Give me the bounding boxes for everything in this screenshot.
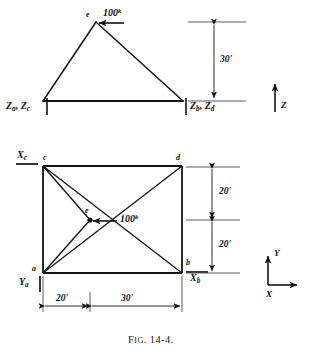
node-e-marker: [87, 217, 92, 222]
truss-member-right: [96, 22, 183, 101]
dimension-vertical-plan: [150, 167, 240, 273]
elevation-height-dimension: 30': [220, 55, 232, 65]
plan-force-unit: k: [135, 213, 138, 220]
figure-14-4: e 100k 30' Za, Zc Zb, Zd Z Xc c d a b e …: [0, 0, 317, 358]
plan-node-d-label: d: [176, 154, 180, 162]
reaction-label-xb: Xb: [190, 273, 200, 285]
elevation-force-value: 100: [103, 7, 118, 18]
plan-force-value: 100: [120, 213, 135, 224]
axis-indicator-xy: [268, 256, 297, 285]
plan-node-c-label: c: [43, 154, 47, 162]
frame-member-ce: [43, 166, 90, 220]
dimension-30-elevation: [188, 22, 246, 101]
plan-horizontal-dim-right: 30': [121, 294, 133, 304]
plan-horizontal-dim-left: 20': [56, 294, 68, 304]
xb-letter: X: [190, 272, 197, 283]
reaction-label-za-zc: Za, Zc: [6, 101, 30, 113]
axis-label-x: X: [266, 290, 272, 299]
plan-frame: [43, 166, 182, 273]
xb-sub: b: [197, 277, 201, 285]
figure-caption: FIG. 14-4.: [128, 334, 174, 345]
elevation-truss: [43, 22, 183, 101]
reaction-label-ya: Ya: [19, 277, 29, 289]
caption-number: . 14-4.: [144, 334, 174, 345]
diagram-vector-layer: [0, 0, 317, 358]
frame-member-ae: [43, 220, 90, 273]
elevation-node-e-label: e: [86, 11, 90, 19]
reaction-label-zb-zd: Zb, Zd: [190, 101, 214, 113]
xc-letter: X: [17, 149, 24, 160]
axis-label-z: Z: [281, 101, 287, 110]
truss-member-left: [43, 22, 96, 101]
plan-vertical-dim-bottom: 20': [219, 240, 231, 250]
plan-node-a-label: a: [32, 265, 36, 273]
xc-sub: c: [24, 154, 27, 162]
elevation-force-label: 100k: [103, 8, 121, 18]
elevation-force-unit: k: [118, 7, 121, 14]
plan-force-label: 100k: [120, 214, 138, 224]
plan-vertical-dim-top: 20': [219, 187, 231, 197]
zc-sub: c: [27, 105, 30, 113]
zd-sub: d: [211, 105, 215, 113]
axis-label-y: Y: [274, 249, 280, 258]
plan-node-e-label: e: [85, 207, 89, 215]
plan-node-b-label: b: [186, 259, 190, 267]
reaction-label-xc: Xc: [17, 150, 27, 162]
caption-ig: IG: [134, 336, 143, 345]
ya-sub: a: [25, 281, 29, 289]
